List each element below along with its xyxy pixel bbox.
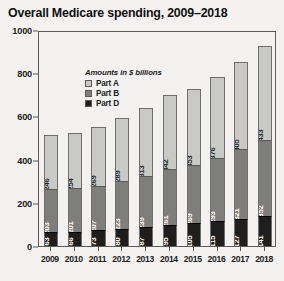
- bar-segment-value-label: $63: [44, 238, 51, 246]
- bar-segment-value-label: $105: [187, 236, 194, 246]
- x-axis-tick-mark: [121, 247, 122, 251]
- bar-group[interactable]: $141$352$433: [258, 30, 272, 246]
- bar-segment-value-label: $376: [210, 148, 217, 158]
- x-axis-tick-label: 2016: [208, 254, 226, 264]
- bar-segment-d[interactable]: $66: [68, 232, 82, 246]
- bar-segment-a[interactable]: $246: [44, 135, 58, 188]
- bar-segment-value-label: $203: [44, 222, 51, 232]
- bar-segment-d[interactable]: $105: [187, 223, 201, 246]
- bar-segment-b[interactable]: $293: [210, 158, 224, 221]
- y-axis-tick-label: 1000: [12, 26, 32, 36]
- bar-segment-value-label: $201: [68, 222, 75, 232]
- x-axis-tick-mark: [145, 247, 146, 251]
- bar-segment-value-label: $115: [210, 236, 217, 246]
- legend-label-part-a: Part A: [96, 79, 119, 88]
- bar-group[interactable]: $95$261$342: [163, 30, 177, 246]
- bar-segment-value-label: $433: [258, 129, 265, 139]
- bar-segment-value-label: $405: [234, 139, 241, 149]
- x-axis-tick-label: 2009: [41, 254, 59, 264]
- bar-segment-value-label: $313: [139, 166, 146, 176]
- legend-swatch-part-a: [85, 80, 92, 87]
- bar-group[interactable]: $115$293$376: [210, 30, 224, 246]
- bar-segment-d[interactable]: $63: [44, 232, 58, 246]
- bar-segment-d[interactable]: $73: [91, 230, 105, 246]
- chart-legend: Amounts in $ billions Part A Part B Part…: [85, 68, 205, 108]
- bar-group[interactable]: $80$223$289: [115, 30, 129, 246]
- bar-segment-value-label: $342: [163, 159, 170, 169]
- bar-segment-b[interactable]: $203: [44, 189, 58, 233]
- bar-segment-value-label: $352: [258, 206, 265, 216]
- bar-segment-value-label: $95: [163, 238, 170, 246]
- y-axis: 02004006008001000: [0, 31, 38, 247]
- bar-segment-a[interactable]: $269: [91, 127, 105, 185]
- y-axis-tick-label: 200: [17, 199, 32, 209]
- bar-segment-value-label: $141: [258, 236, 265, 246]
- legend-label-part-d: Part D: [96, 99, 119, 108]
- x-axis-tick-mark: [169, 247, 170, 251]
- bar-group[interactable]: $63$203$246: [44, 30, 58, 246]
- bar-segment-value-label: $289: [115, 171, 122, 181]
- chart-title: Overall Medicare spending, 2009–2018: [8, 6, 280, 20]
- bar-segment-d[interactable]: $115: [210, 221, 224, 246]
- x-axis-tick-label: 2012: [112, 254, 130, 264]
- chart-figure: Overall Medicare spending, 2009–2018 020…: [0, 0, 284, 281]
- bar-segment-a[interactable]: $254: [68, 133, 82, 188]
- bar-segment-b[interactable]: $207: [91, 186, 105, 231]
- x-axis-tick-label: 2014: [160, 254, 178, 264]
- legend-item-part-d: Part D: [85, 99, 205, 108]
- bar-segment-value-label: $66: [68, 238, 75, 246]
- x-axis-tick-label: 2010: [65, 254, 83, 264]
- y-axis-tick-label: 800: [17, 69, 32, 79]
- bar-segment-value-label: $321: [234, 209, 241, 219]
- bar-segment-a[interactable]: $289: [115, 118, 129, 180]
- bar-segment-value-label: $254: [68, 178, 75, 188]
- bar-segment-d[interactable]: $80: [115, 229, 129, 246]
- bar-segment-d[interactable]: $95: [163, 225, 177, 246]
- bar-segment-b[interactable]: $321: [234, 149, 248, 218]
- x-axis-tick-mark: [98, 247, 99, 251]
- bar-segment-d[interactable]: $127: [234, 219, 248, 246]
- bar-segment-d[interactable]: $87: [139, 227, 153, 246]
- bar-segment-b[interactable]: $352: [258, 140, 272, 216]
- bar-group[interactable]: $87$239$313: [139, 30, 153, 246]
- x-axis-tick-mark: [74, 247, 75, 251]
- x-axis-tick-mark: [217, 247, 218, 251]
- bar-segment-value-label: $246: [44, 179, 51, 189]
- x-axis-tick-mark: [240, 247, 241, 251]
- bar-group[interactable]: $66$201$254: [68, 30, 82, 246]
- x-axis-tick-mark: [193, 247, 194, 251]
- bar-segment-value-label: $80: [115, 238, 122, 246]
- bar-segment-value-label: $239: [139, 217, 146, 227]
- bar-segment-value-label: $261: [163, 215, 170, 225]
- bar-segment-a[interactable]: $433: [258, 46, 272, 140]
- bar-segment-a[interactable]: $313: [139, 108, 153, 176]
- y-axis-tick-label: 0: [27, 242, 32, 252]
- bar-segment-value-label: $353: [187, 155, 194, 165]
- bar-segment-b[interactable]: $223: [115, 181, 129, 229]
- y-axis-tick-label: 400: [17, 156, 32, 166]
- bar-segment-b[interactable]: $269: [187, 165, 201, 223]
- bar-series-container: $63$203$246$66$201$254$73$207$269$80$223…: [39, 32, 275, 246]
- bar-segment-b[interactable]: $261: [163, 169, 177, 225]
- x-axis-tick-label: 2013: [136, 254, 154, 264]
- legend-label-part-b: Part B: [96, 89, 119, 98]
- bar-segment-b[interactable]: $239: [139, 176, 153, 228]
- legend-item-part-a: Part A: [85, 79, 205, 88]
- bar-segment-a[interactable]: $376: [210, 77, 224, 158]
- y-axis-tick-label: 600: [17, 112, 32, 122]
- bar-segment-value-label: $269: [187, 213, 194, 223]
- bar-segment-a[interactable]: $405: [234, 62, 248, 149]
- bar-segment-b[interactable]: $201: [68, 188, 82, 231]
- bar-segment-value-label: $223: [115, 219, 122, 229]
- bar-segment-value-label: $87: [139, 238, 146, 246]
- bar-segment-value-label: $293: [210, 211, 217, 221]
- x-axis: 2009201020112012201320142015201620172018: [38, 247, 276, 271]
- bar-group[interactable]: $105$269$353: [187, 30, 201, 246]
- legend-swatch-part-d: [85, 100, 92, 107]
- bar-segment-d[interactable]: $141: [258, 216, 272, 246]
- bar-group[interactable]: $73$207$269: [91, 30, 105, 246]
- x-axis-tick-mark: [264, 247, 265, 251]
- legend-item-part-b: Part B: [85, 89, 205, 98]
- bar-group[interactable]: $127$321$405: [234, 30, 248, 246]
- bar-segment-value-label: $127: [234, 236, 241, 246]
